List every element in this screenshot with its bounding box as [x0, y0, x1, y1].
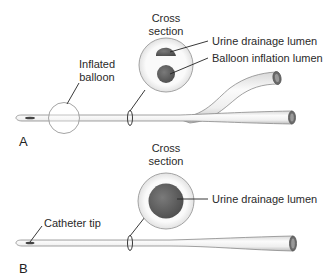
panel-a-foley-catheter: Cross section Urine drainage lumen Ballo… [16, 12, 323, 149]
balloon-inflation-lumen-label: Balloon inflation lumen [212, 52, 323, 64]
panel-b-straight-catheter: Cross section Urine drainage lumen Cathe… [16, 142, 317, 276]
catheter-diagram: Cross section Urine drainage lumen Ballo… [0, 0, 334, 277]
cross-section-label-a-line2: section [149, 25, 184, 37]
inflated-balloon [49, 103, 80, 134]
urine-drainage-lumen-label-b: Urine drainage lumen [212, 193, 317, 205]
urine-drainage-lumen-b [149, 184, 184, 219]
balloon-inflation-lumen-a [157, 65, 175, 83]
cross-section-label-a: Cross [152, 12, 181, 24]
panel-letter-b: B [19, 261, 28, 276]
panel-letter-a: A [19, 134, 28, 149]
inflated-balloon-label: Inflated [79, 58, 115, 70]
catheter-eyelet-a [25, 117, 35, 120]
urine-drainage-lumen-label-a: Urine drainage lumen [212, 35, 317, 47]
catheter-tip-label: Catheter tip [44, 217, 101, 229]
catheter-shaft-b [16, 236, 293, 251]
inflated-balloon-label-line2: balloon [79, 71, 114, 83]
cross-section-label-b: Cross [152, 142, 181, 154]
cross-section-label-b-line2: section [149, 155, 184, 167]
catheter-eyelet-b [26, 242, 35, 245]
